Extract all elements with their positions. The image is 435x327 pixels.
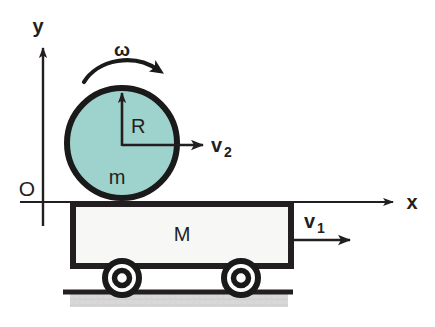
cart-velocity-subscript: 1	[317, 220, 325, 236]
ground-shadow-band	[70, 294, 288, 307]
y-axis-label: y	[32, 15, 44, 37]
radius-label: R	[131, 115, 145, 137]
cart-mass-label: M	[174, 223, 191, 245]
x-axis-label: x	[406, 191, 417, 213]
cylinder-velocity-symbol: v	[211, 134, 223, 156]
origin-label: O	[19, 177, 35, 200]
cart-wheel-left	[105, 261, 139, 295]
angular-velocity-arc	[84, 60, 158, 82]
diagram-canvas: y x O ω R m M v 2 v 1	[0, 0, 435, 327]
physics-diagram-figure: y x O ω R m M v 2 v 1	[0, 0, 435, 327]
cart-wheel-right	[224, 261, 258, 295]
cart-velocity-label: v 1	[304, 210, 325, 236]
cylinder-velocity-label: v 2	[211, 134, 232, 160]
cart-velocity-symbol: v	[304, 210, 316, 232]
cylinder-mass-label: m	[109, 166, 126, 188]
cylinder-velocity-subscript: 2	[224, 144, 232, 160]
angular-velocity-label: ω	[114, 39, 130, 60]
